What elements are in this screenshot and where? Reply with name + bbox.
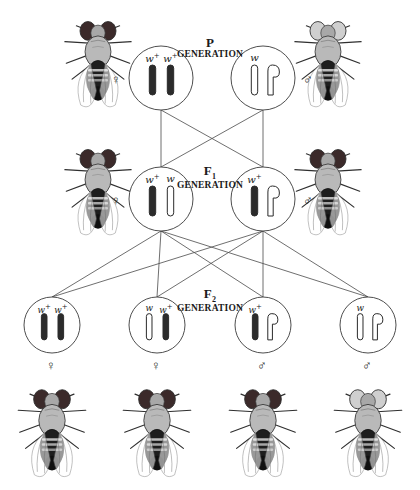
f2-fly-1 xyxy=(14,378,90,488)
x-chromosome xyxy=(163,314,169,340)
allele-label: w+ xyxy=(45,303,77,315)
f2-fly-4 xyxy=(330,378,406,488)
x-chromosome xyxy=(146,314,152,340)
fly-body-svg xyxy=(330,378,406,488)
fly-body-svg xyxy=(14,378,90,488)
allele-label: w xyxy=(344,303,376,313)
male-symbol: ♂ xyxy=(257,359,267,372)
female-symbol: ♀ xyxy=(111,73,121,86)
p-female-to-f1-male xyxy=(161,110,263,167)
x-chromosome xyxy=(357,314,363,340)
x-chromosome xyxy=(149,186,155,216)
male-symbol: ♂ xyxy=(303,194,313,207)
fly-body-svg xyxy=(292,136,364,248)
x-chromosome xyxy=(167,65,173,95)
fly-body-svg xyxy=(119,378,195,488)
male-symbol: ♂ xyxy=(362,359,372,372)
pedigree-diagram: w+w+♀w♂w+w♀w+♂w+w+♀ww+♀w+♂w♂ PGENERATION… xyxy=(0,0,420,490)
x-chromosome xyxy=(58,314,64,340)
f2-male-cell-2[interactable]: w xyxy=(338,295,398,355)
fly-body-svg xyxy=(62,8,134,120)
p-female-fly xyxy=(62,8,134,120)
generation-label-p: PGENERATION xyxy=(160,36,260,60)
generation-label-f2: F2GENERATION xyxy=(160,287,260,314)
x-chromosome xyxy=(41,314,47,340)
x-chromosome xyxy=(149,65,155,95)
x-chromosome xyxy=(252,314,258,340)
f1-female-fly xyxy=(62,136,134,248)
generation-word: GENERATION xyxy=(160,181,260,191)
allele-superscript: + xyxy=(62,303,68,311)
generation-name: P xyxy=(160,36,260,50)
p-male-fly xyxy=(292,8,364,120)
male-symbol: ♂ xyxy=(303,73,313,86)
p-male-to-f1-female xyxy=(161,110,263,167)
generation-word: GENERATION xyxy=(160,50,260,60)
x-chromosome xyxy=(251,65,257,95)
fly-body-svg xyxy=(292,8,364,120)
female-symbol: ♀ xyxy=(111,194,121,207)
generation-label-f1: F1GENERATION xyxy=(160,164,260,191)
fly-body-svg xyxy=(225,378,301,488)
female-symbol: ♀ xyxy=(46,359,56,372)
generation-name: F1 xyxy=(160,164,260,181)
generation-word: GENERATION xyxy=(160,304,260,314)
f2-fly-2 xyxy=(119,378,195,488)
generation-name: F2 xyxy=(160,287,260,304)
f2-female-cell-1[interactable]: w+w+ xyxy=(22,295,82,355)
fly-body-svg xyxy=(62,136,134,248)
female-symbol: ♀ xyxy=(151,359,161,372)
f2-fly-3 xyxy=(225,378,301,488)
f1-male-fly xyxy=(292,136,364,248)
